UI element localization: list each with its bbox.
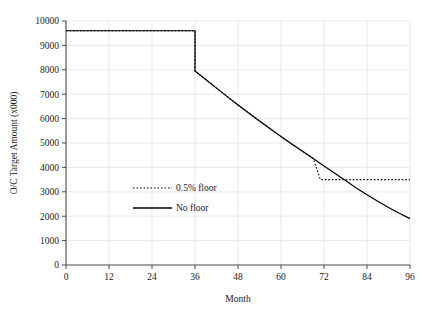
x-tick-label: 48 bbox=[233, 272, 243, 282]
y-tick-label: 5000 bbox=[40, 138, 59, 148]
y-tick-label: 4000 bbox=[40, 163, 59, 173]
line-chart: 0100020003000400050006000700080009000100… bbox=[0, 0, 431, 316]
y-tick-label: 2000 bbox=[40, 212, 59, 222]
x-tick-label: 84 bbox=[362, 272, 372, 282]
chart-container: 0100020003000400050006000700080009000100… bbox=[0, 0, 431, 316]
y-tick-label: 9000 bbox=[40, 41, 59, 51]
y-tick-label: 6000 bbox=[40, 114, 59, 124]
legend-label: No floor bbox=[176, 203, 209, 213]
x-tick-label: 60 bbox=[276, 272, 286, 282]
x-tick-label: 36 bbox=[190, 272, 200, 282]
legend-label: 0.5% floor bbox=[176, 183, 217, 193]
x-tick-label: 12 bbox=[104, 272, 114, 282]
y-tick-label: 3000 bbox=[40, 187, 59, 197]
y-tick-label: 1000 bbox=[40, 236, 59, 246]
x-tick-label: 72 bbox=[319, 272, 329, 282]
y-tick-label: 8000 bbox=[40, 65, 59, 75]
chart-background bbox=[0, 0, 431, 316]
x-tick-label: 96 bbox=[405, 272, 415, 282]
x-tick-label: 24 bbox=[147, 272, 157, 282]
y-tick-label: 10000 bbox=[35, 16, 59, 26]
x-axis-title: Month bbox=[225, 294, 251, 304]
y-tick-label: 0 bbox=[54, 260, 59, 270]
x-tick-label: 0 bbox=[64, 272, 69, 282]
y-axis-title: O/C Target Amount (x000) bbox=[9, 92, 20, 195]
y-tick-label: 7000 bbox=[40, 90, 59, 100]
